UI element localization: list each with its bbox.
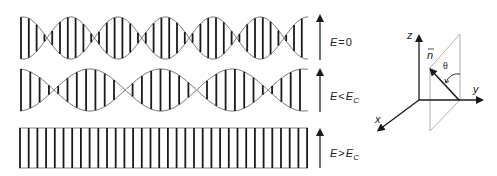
normal-vector	[432, 71, 459, 100]
helix-row-below-critical	[20, 69, 308, 111]
z-axis-label: z	[406, 29, 413, 41]
plane	[430, 34, 460, 131]
cholesteric-helix-diagram: E=0 E<EC E>EC z y x n θ	[0, 0, 497, 176]
y-axis-label: y	[472, 83, 480, 95]
row-label-above-critical: E>EC	[330, 147, 359, 162]
row-label-below-critical: E<EC	[330, 90, 359, 105]
helix-row-above-critical	[19, 128, 308, 168]
row-label-zero-field: E=0	[330, 36, 352, 48]
x-axis	[380, 100, 419, 129]
normal-label: n	[427, 49, 433, 61]
x-axis-label: x	[374, 113, 381, 125]
angle-label: θ	[443, 60, 448, 71]
coordinate-system: z y x n θ	[374, 29, 480, 131]
helix-row-zero-field	[20, 17, 308, 59]
